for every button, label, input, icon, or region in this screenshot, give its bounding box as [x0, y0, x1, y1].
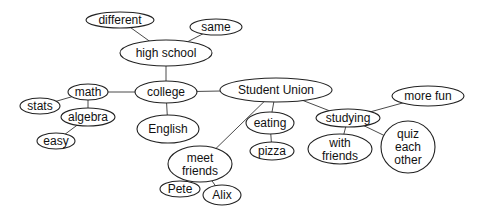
node-label: friends	[322, 149, 358, 163]
node-label: stats	[27, 99, 52, 113]
node-label: same	[201, 20, 231, 34]
node-label: Student Union	[238, 83, 314, 97]
node-label: friends	[182, 164, 218, 178]
node-with-friends: withfriends	[308, 134, 372, 164]
node-label: algebra	[68, 110, 108, 124]
node-label: college	[147, 85, 185, 99]
node-student-union: Student Union	[220, 78, 332, 102]
node-studying: studying	[316, 109, 380, 127]
node-english: English	[137, 115, 199, 143]
node-label: studying	[326, 111, 371, 125]
node-label: easy	[43, 134, 68, 148]
node-label: eating	[254, 116, 287, 130]
node-quiz-each-other: quizeachother	[381, 121, 435, 173]
node-different: different	[86, 12, 154, 28]
node-label: high school	[136, 46, 197, 60]
node-label: pizza	[258, 144, 286, 158]
node-label: Pete	[168, 182, 193, 196]
node-label: quiz	[397, 127, 419, 141]
node-alix: Alix	[203, 185, 241, 205]
edge-layer	[40, 20, 428, 195]
node-label: meet	[187, 151, 214, 165]
node-eating: eating	[246, 112, 294, 134]
node-same: same	[190, 19, 242, 35]
concept-map-canvas: differentsamehigh schoolcollegemathstats…	[0, 0, 480, 215]
node-more-fun: more fun	[392, 86, 464, 106]
node-label: math	[75, 85, 102, 99]
node-meet-friends: meetfriends	[168, 146, 232, 182]
node-label: each	[395, 140, 421, 154]
node-label: English	[148, 122, 187, 136]
node-college: college	[135, 81, 197, 103]
node-label: other	[394, 153, 421, 167]
node-pizza: pizza	[250, 142, 294, 160]
node-label: more fun	[404, 89, 451, 103]
node-label: different	[98, 13, 142, 27]
node-stats: stats	[20, 98, 60, 114]
node-label: with	[328, 136, 350, 150]
concept-map: differentsamehigh schoolcollegemathstats…	[0, 0, 480, 215]
node-math: math	[68, 84, 108, 100]
node-layer: differentsamehigh schoolcollegemathstats…	[20, 12, 464, 205]
node-easy: easy	[37, 133, 75, 149]
node-algebra: algebra	[61, 108, 115, 126]
node-pete: Pete	[160, 181, 200, 197]
node-high-school: high school	[120, 40, 212, 66]
node-label: Alix	[212, 188, 231, 202]
